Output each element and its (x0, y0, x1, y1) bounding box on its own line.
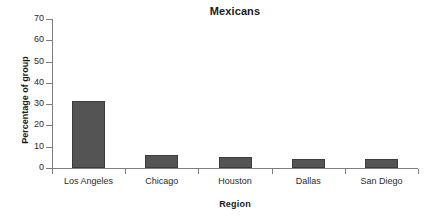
y-axis-tick (46, 19, 52, 20)
x-axis-tick (272, 169, 273, 174)
x-axis-tick-label: Los Angeles (52, 176, 125, 186)
bar (145, 155, 178, 168)
y-axis-tick-label: 70 (0, 14, 44, 23)
plot-area (0, 0, 428, 220)
bar-chart-figure: Mexicans Percentage of group Region 0102… (0, 0, 428, 220)
y-axis-tick (46, 62, 52, 63)
y-axis-tick (46, 125, 52, 126)
x-axis-tick-label: Dallas (272, 176, 345, 186)
y-axis-tick-label: 40 (0, 78, 44, 87)
y-axis-tick (46, 40, 52, 41)
y-axis-tick-label: 50 (0, 57, 44, 66)
x-axis-tick (418, 169, 419, 174)
bar (292, 159, 325, 168)
x-axis-tick-label: Chicago (125, 176, 198, 186)
x-axis-tick-label: San Diego (345, 176, 418, 186)
y-axis-tick-label: 20 (0, 120, 44, 129)
y-axis-tick-label: 0 (0, 163, 44, 172)
y-axis-tick (46, 147, 52, 148)
y-axis-tick (46, 104, 52, 105)
y-axis-tick-label: 10 (0, 142, 44, 151)
x-axis-tick (125, 169, 126, 174)
x-axis-tick-label: Houston (198, 176, 271, 186)
y-axis-tick-label: 60 (0, 35, 44, 44)
bar (219, 157, 252, 168)
y-axis-tick-label: 30 (0, 99, 44, 108)
bar (365, 159, 398, 168)
x-axis-tick (345, 169, 346, 174)
y-axis-tick (46, 83, 52, 84)
x-axis-label: Region (52, 199, 418, 209)
x-axis-tick (52, 169, 53, 174)
x-axis-tick (198, 169, 199, 174)
bar (72, 101, 105, 168)
